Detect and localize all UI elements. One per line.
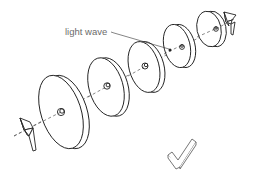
disk-3 [123, 38, 170, 96]
disk-5 [194, 9, 230, 49]
disk-4 [159, 22, 200, 71]
checkmark-icon [168, 139, 196, 169]
left-prism [20, 118, 36, 151]
disk-2 [81, 53, 135, 120]
optical-disk-diagram: light wave [0, 0, 253, 181]
disk-1 [14, 70, 98, 155]
light-wave-label: light wave [65, 26, 107, 37]
